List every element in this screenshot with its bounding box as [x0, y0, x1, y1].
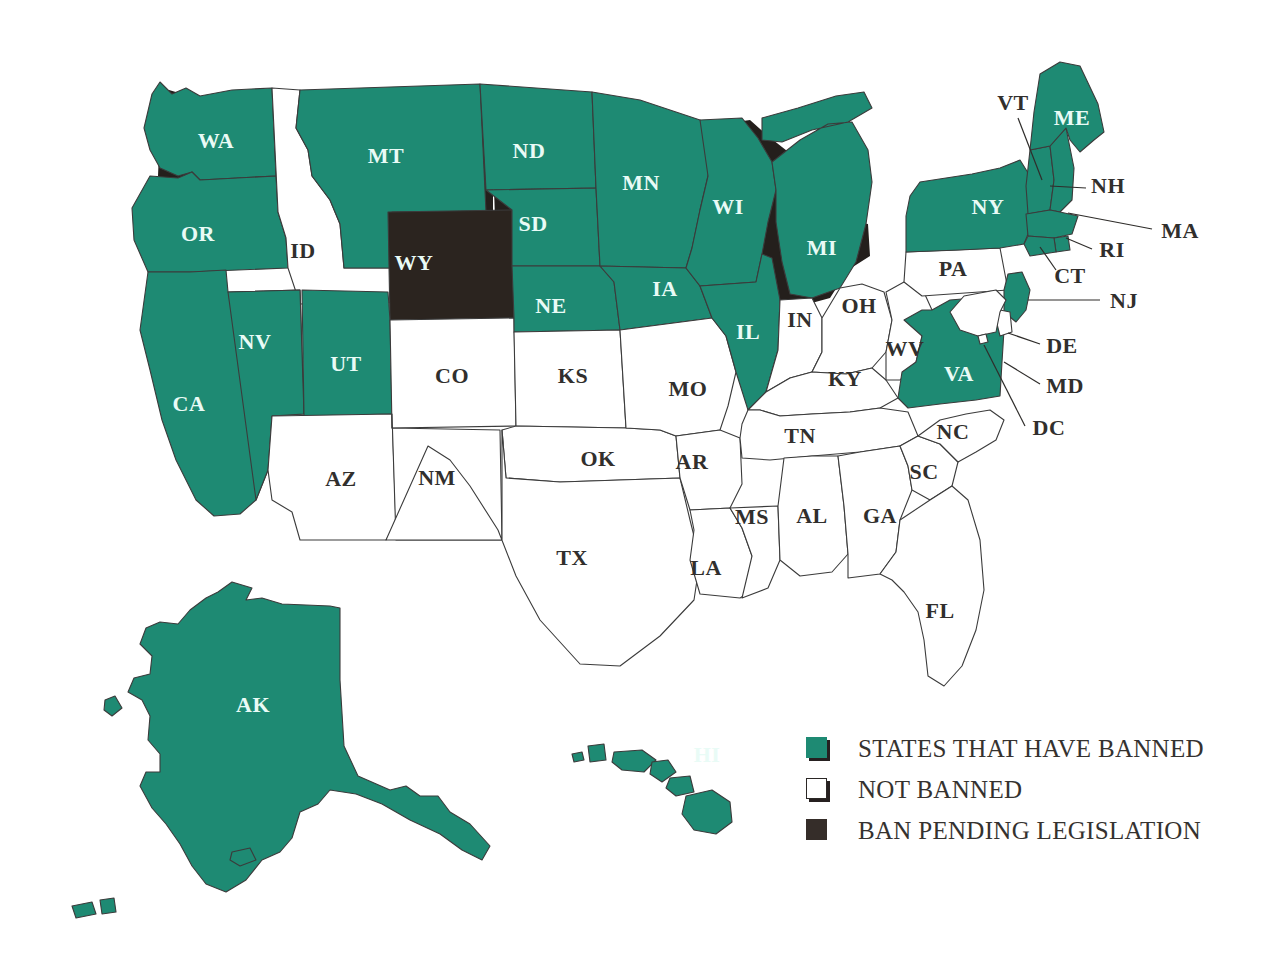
state-AK-island-4	[100, 898, 116, 914]
state-AK-island-1	[104, 696, 122, 716]
state-label-GA: GA	[863, 503, 897, 528]
state-label-AK: AK	[236, 692, 270, 717]
legend-label-pending: BAN PENDING LEGISLATION	[858, 817, 1201, 845]
state-AK-island-3	[72, 902, 96, 918]
state-label-MT: MT	[368, 143, 404, 168]
state-label-NY: NY	[972, 194, 1005, 219]
state-VT[interactable]	[1026, 146, 1054, 214]
map-legend: STATES THAT HAVE BANNED NOT BANNED BAN P…	[806, 728, 1236, 851]
state-label-WY: WY	[395, 250, 434, 275]
state-HI-island-5	[666, 776, 694, 796]
state-label-ID: ID	[290, 238, 315, 263]
us-ban-status-map: WAORCANVIDMTWYUTAZCONMNDSDNEKSOKTXMNIAMO…	[0, 0, 1264, 974]
legend-swatch-not-banned-wrap	[806, 778, 830, 802]
state-label-MI: MI	[807, 235, 837, 260]
state-label-OR: OR	[181, 221, 216, 246]
state-label-NE: NE	[535, 293, 567, 318]
leader-line-MD	[1004, 362, 1040, 384]
legend-swatch-pending	[806, 819, 827, 840]
state-label-KY: KY	[828, 366, 862, 391]
state-label-WV: WV	[886, 336, 925, 361]
leader-line-DE	[1008, 333, 1040, 344]
state-label-LA: LA	[690, 555, 722, 580]
legend-swatch-not-banned	[806, 778, 827, 799]
legend-label-not-banned: NOT BANNED	[858, 776, 1022, 804]
state-label-TX: TX	[556, 545, 588, 570]
state-label-MD: MD	[1046, 373, 1084, 398]
state-label-CO: CO	[435, 363, 469, 388]
state-label-AL: AL	[796, 503, 828, 528]
state-label-HI: HI	[694, 742, 721, 767]
legend-row-not-banned: NOT BANNED	[806, 769, 1236, 810]
state-label-VA: VA	[944, 361, 974, 386]
state-label-OH: OH	[841, 293, 876, 318]
legend-row-banned: STATES THAT HAVE BANNED	[806, 728, 1236, 769]
state-label-NC: NC	[937, 419, 970, 444]
state-HI-island-2	[588, 744, 606, 762]
legend-swatch-banned	[806, 737, 827, 758]
state-label-ND: ND	[513, 138, 546, 163]
state-CT[interactable]	[1024, 236, 1056, 256]
state-label-IA: IA	[652, 276, 677, 301]
state-label-AR: AR	[676, 449, 709, 474]
state-HI-island-3	[612, 750, 656, 772]
legend-swatch-pending-wrap	[806, 819, 830, 843]
state-label-MA: MA	[1161, 218, 1199, 243]
state-label-CT: CT	[1054, 263, 1086, 288]
state-label-CA: CA	[173, 391, 206, 416]
state-label-AZ: AZ	[325, 466, 357, 491]
state-label-IN: IN	[787, 307, 812, 332]
state-label-IL: IL	[736, 319, 760, 344]
state-label-DE: DE	[1046, 333, 1078, 358]
state-DC[interactable]	[978, 334, 988, 344]
state-label-MS: MS	[735, 504, 769, 529]
state-label-SD: SD	[518, 211, 547, 236]
state-label-MN: MN	[622, 170, 660, 195]
legend-row-pending: BAN PENDING LEGISLATION	[806, 810, 1236, 851]
state-label-RI: RI	[1099, 237, 1124, 262]
state-AK[interactable]	[128, 582, 490, 892]
state-label-WA: WA	[198, 128, 234, 153]
state-label-NH: NH	[1091, 173, 1125, 198]
state-MA[interactable]	[1026, 210, 1078, 238]
state-label-NV: NV	[239, 329, 272, 354]
state-HI-island-6	[682, 790, 732, 834]
state-label-DC: DC	[1033, 415, 1066, 440]
state-label-NJ: NJ	[1110, 288, 1138, 313]
state-label-FL: FL	[925, 598, 954, 623]
state-ND[interactable]	[480, 84, 596, 190]
state-label-WI: WI	[712, 194, 744, 219]
state-label-ME: ME	[1054, 105, 1090, 130]
state-label-KS: KS	[558, 363, 588, 388]
state-label-MO: MO	[669, 376, 708, 401]
legend-label-banned: STATES THAT HAVE BANNED	[858, 735, 1204, 763]
state-HI-island-1	[572, 752, 584, 762]
state-label-NM: NM	[418, 465, 456, 490]
state-label-VT: VT	[997, 90, 1029, 115]
state-label-TN: TN	[784, 423, 816, 448]
state-label-OK: OK	[580, 446, 615, 471]
legend-swatch-banned-wrap	[806, 737, 830, 761]
state-label-PA: PA	[939, 256, 968, 281]
state-label-SC: SC	[909, 459, 938, 484]
state-label-UT: UT	[330, 351, 362, 376]
